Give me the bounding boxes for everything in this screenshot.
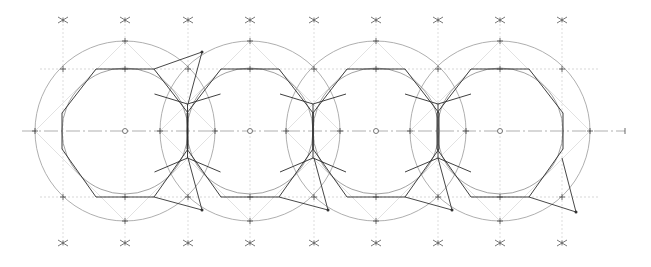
top-asterisk-mark [183, 17, 193, 23]
circle-center-mark [498, 129, 503, 134]
circle-center-mark [248, 129, 253, 134]
circle-center-mark [123, 129, 128, 134]
top-asterisk-mark [309, 17, 319, 23]
bottom-asterisk-mark [309, 240, 319, 246]
lower-join-v [280, 158, 346, 172]
diagram-canvas [0, 0, 651, 267]
construction-marks [32, 17, 593, 246]
bottom-asterisk-mark [557, 240, 567, 246]
top-asterisk-mark [433, 17, 443, 23]
bottom-asterisk-mark [58, 240, 68, 246]
bottom-asterisk-mark [245, 240, 255, 246]
ring-construction-drawing [0, 0, 651, 267]
bridge-node [201, 51, 204, 54]
bridge-node [327, 209, 330, 212]
bridge-node [575, 211, 578, 214]
bottom-asterisk-mark [495, 240, 505, 246]
top-asterisk-mark [120, 17, 130, 23]
upper-join-v [280, 94, 346, 104]
bridge-node [201, 209, 204, 212]
top-asterisk-mark [58, 17, 68, 23]
top-asterisk-mark [557, 17, 567, 23]
bottom-asterisk-mark [183, 240, 193, 246]
circle-center-mark [374, 129, 379, 134]
center-axis [22, 128, 625, 134]
bottom-asterisk-mark [120, 240, 130, 246]
lower-join-v [155, 158, 221, 172]
octagon-outlines [62, 69, 563, 197]
bottom-asterisk-mark [433, 240, 443, 246]
bottom-asterisk-mark [371, 240, 381, 246]
top-asterisk-mark [371, 17, 381, 23]
bridge-lines [154, 51, 578, 214]
top-asterisk-mark [495, 17, 505, 23]
top-asterisk-mark [245, 17, 255, 23]
bridge-node [451, 209, 454, 212]
